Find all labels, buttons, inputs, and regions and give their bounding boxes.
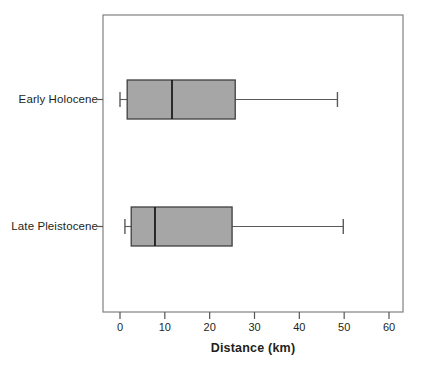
x-tick-label-0: 0 bbox=[106, 321, 134, 333]
x-tick-label-20: 20 bbox=[196, 321, 224, 333]
x-axis-ticks bbox=[120, 312, 389, 319]
x-tick-label-50: 50 bbox=[330, 321, 358, 333]
x-tick-label-60: 60 bbox=[375, 321, 403, 333]
box-rect-late-pleistocene bbox=[131, 207, 232, 246]
boxplot-chart: Early Holocene Late Pleistocene bbox=[0, 0, 421, 370]
plot-area bbox=[0, 0, 421, 370]
x-tick-label-30: 30 bbox=[241, 321, 269, 333]
x-tick-label-10: 10 bbox=[151, 321, 179, 333]
x-axis-title: Distance (km) bbox=[103, 341, 403, 355]
box-rect-early-holocene bbox=[127, 80, 235, 119]
plot-frame bbox=[103, 15, 403, 312]
x-tick-label-40: 40 bbox=[285, 321, 313, 333]
